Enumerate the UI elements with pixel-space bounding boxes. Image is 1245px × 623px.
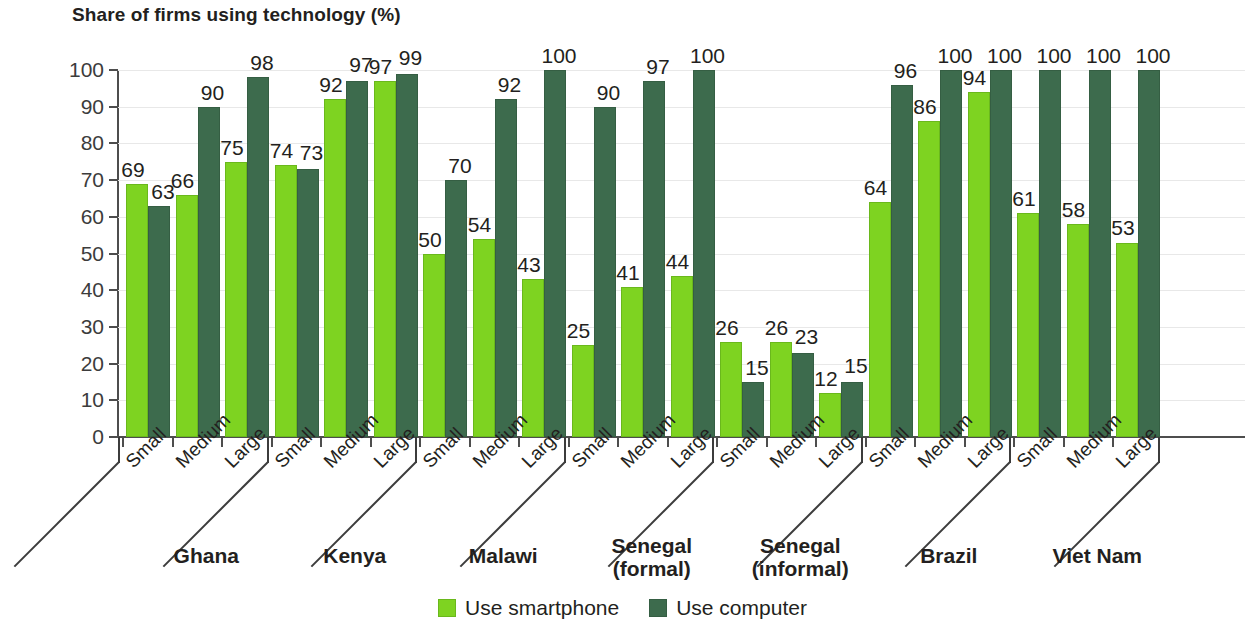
group-separator-stub <box>118 437 120 463</box>
group-separator-stub <box>861 437 863 463</box>
bar-use-smartphone <box>671 276 693 437</box>
bar-value-label-smartphone: 94 <box>953 67 997 88</box>
x-tick-mark <box>1112 437 1114 447</box>
x-tick-mark <box>320 437 322 447</box>
bar-use-smartphone <box>572 345 594 437</box>
country-label-line: Kenya <box>323 545 386 568</box>
bar-value-label-computer: 90 <box>191 82 235 103</box>
x-tick-mark <box>370 437 372 447</box>
bar-use-smartphone <box>126 184 148 437</box>
y-tick-mark <box>109 253 118 255</box>
bar-use-smartphone <box>176 195 198 437</box>
page-title: Share of firms using technology (%) <box>72 4 401 26</box>
y-tick-mark <box>109 216 118 218</box>
bar-value-label-computer: 92 <box>488 74 532 95</box>
legend-label-smartphone: Use smartphone <box>465 597 619 618</box>
y-tick-mark <box>109 326 118 328</box>
bar-value-label-smartphone: 26 <box>705 317 749 338</box>
bar-use-smartphone <box>1017 213 1039 437</box>
legend-item-use-smartphone: Use smartphone <box>438 597 619 618</box>
bar-value-label-smartphone: 53 <box>1101 217 1145 238</box>
y-tick-label: 30 <box>58 316 104 337</box>
bar-value-label-computer: 100 <box>1032 45 1076 66</box>
bar-value-label-computer: 100 <box>686 45 730 66</box>
country-label: Senegal(informal) <box>752 535 849 580</box>
bar-use-computer <box>148 206 170 437</box>
gridline <box>118 70 1245 71</box>
y-tick-label: 20 <box>58 353 104 374</box>
bar-use-smartphone <box>374 81 396 437</box>
y-tick-mark <box>109 399 118 401</box>
bar-use-computer <box>247 77 269 437</box>
country-label: Malawi <box>469 545 538 568</box>
chart-legend: Use smartphone Use computer <box>0 597 1245 618</box>
bar-use-computer <box>396 74 418 437</box>
bar-use-smartphone <box>1067 224 1089 437</box>
y-tick-label: 80 <box>58 132 104 153</box>
bar-value-label-computer: 15 <box>834 355 878 376</box>
bar-use-computer <box>940 70 962 437</box>
bar-use-computer <box>1138 70 1160 437</box>
legend-swatch-icon-computer <box>649 599 667 617</box>
x-tick-mark <box>518 437 520 447</box>
x-tick-mark <box>964 437 966 447</box>
bar-value-label-computer: 100 <box>933 45 977 66</box>
bar-value-label-computer: 70 <box>438 155 482 176</box>
group-separator-stub <box>712 437 714 463</box>
bar-use-smartphone <box>918 121 940 437</box>
y-tick-mark <box>109 289 118 291</box>
bar-use-smartphone <box>1116 243 1138 438</box>
bar-value-label-computer: 99 <box>389 47 433 68</box>
country-label-line: Malawi <box>469 545 538 568</box>
bar-use-smartphone <box>869 202 891 437</box>
bar-value-label-computer: 96 <box>884 60 928 81</box>
country-label: Ghana <box>174 545 239 568</box>
y-tick-label: 40 <box>58 279 104 300</box>
country-label-line: (informal) <box>752 558 849 581</box>
bar-value-label-computer: 98 <box>240 52 284 73</box>
country-label: Viet Nam <box>1053 545 1143 568</box>
x-tick-mark <box>1063 437 1065 447</box>
y-tick-mark <box>109 106 118 108</box>
bar-use-computer <box>1039 70 1061 437</box>
bar-value-label-computer: 100 <box>1082 45 1126 66</box>
x-tick-mark <box>568 437 570 447</box>
bar-use-smartphone <box>225 162 247 437</box>
group-separator-stub <box>1158 437 1160 463</box>
bar-value-label-smartphone: 50 <box>408 229 452 250</box>
bar-value-label-smartphone: 25 <box>557 320 601 341</box>
x-tick-mark <box>865 437 867 447</box>
bar-value-label-smartphone: 61 <box>1002 188 1046 209</box>
x-tick-mark <box>914 437 916 447</box>
bar-value-label-smartphone: 69 <box>111 159 155 180</box>
bar-use-smartphone <box>275 165 297 437</box>
x-tick-mark <box>221 437 223 447</box>
group-separator-stub <box>1009 437 1011 463</box>
bar-value-label-smartphone: 64 <box>854 177 898 198</box>
y-tick-label: 100 <box>58 59 104 80</box>
bar-value-label-computer: 73 <box>290 142 334 163</box>
bar-use-smartphone <box>968 92 990 437</box>
x-tick-mark <box>815 437 817 447</box>
bar-use-smartphone <box>770 342 792 437</box>
x-tick-mark <box>122 437 124 447</box>
y-axis: 0102030405060708090100 <box>52 0 104 623</box>
x-tick-mark <box>172 437 174 447</box>
group-separator-stub <box>564 437 566 463</box>
y-tick-mark <box>109 142 118 144</box>
y-tick-mark <box>109 69 118 71</box>
x-tick-mark <box>716 437 718 447</box>
bar-use-smartphone <box>621 287 643 437</box>
bar-use-smartphone <box>819 393 841 437</box>
bar-use-computer <box>346 81 368 437</box>
group-separator-stub <box>415 437 417 463</box>
group-separator-stub <box>267 437 269 463</box>
y-tick-mark <box>109 436 118 438</box>
bar-value-label-smartphone: 58 <box>1052 199 1096 220</box>
y-tick-label: 60 <box>58 206 104 227</box>
country-label: Senegal(formal) <box>611 535 692 580</box>
bar-use-smartphone <box>423 254 445 438</box>
legend-label-computer: Use computer <box>676 597 807 618</box>
country-label-line: Viet Nam <box>1053 545 1143 568</box>
gridline <box>118 107 1245 108</box>
